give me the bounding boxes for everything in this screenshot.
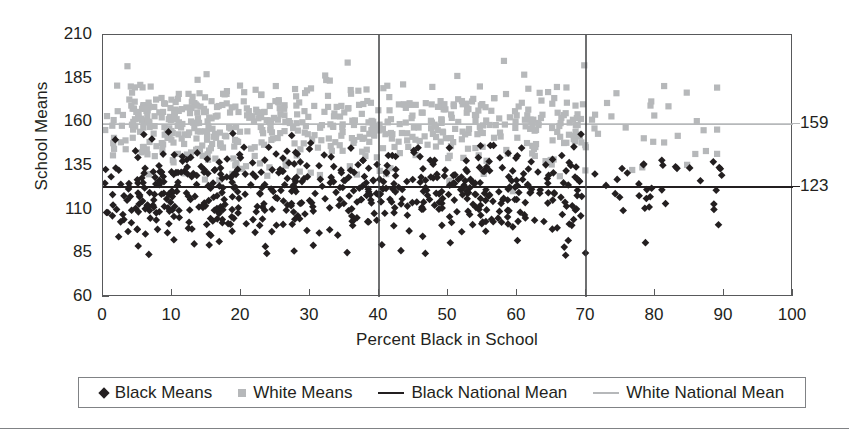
data-point: [249, 159, 257, 167]
data-point: [129, 90, 135, 96]
data-point: [525, 165, 533, 173]
data-point: [275, 99, 281, 105]
data-point: [608, 113, 614, 119]
x-tick-label: 60: [486, 306, 546, 323]
data-point: [153, 96, 159, 102]
data-point: [558, 152, 566, 160]
y-tick-label: 60: [34, 287, 92, 304]
legend-line-marker-icon: [378, 392, 404, 394]
data-point: [483, 117, 489, 123]
data-point: [215, 238, 223, 246]
data-point: [613, 176, 621, 184]
data-point: [302, 130, 308, 136]
data-point: [123, 146, 129, 152]
data-point: [290, 160, 298, 168]
data-point: [703, 148, 709, 154]
data-point: [531, 216, 539, 224]
x-tick-label: 100: [762, 306, 822, 323]
data-point: [202, 94, 208, 100]
data-point: [107, 173, 115, 181]
data-point: [557, 173, 563, 179]
legend-line-marker-icon: [593, 392, 619, 394]
data-point: [509, 167, 517, 175]
legend-item[interactable]: Black National Mean: [378, 383, 567, 403]
data-point: [273, 83, 279, 89]
data-point: [413, 102, 419, 108]
data-point: [139, 149, 145, 155]
data-point: [409, 176, 417, 184]
data-point: [228, 227, 236, 235]
data-point: [241, 89, 247, 95]
data-point: [395, 139, 401, 145]
data-point: [474, 131, 480, 137]
data-point: [539, 112, 545, 118]
data-point: [334, 231, 342, 239]
legend-item[interactable]: White National Mean: [593, 383, 784, 403]
data-point: [389, 131, 395, 137]
data-point: [370, 210, 378, 218]
data-point: [404, 130, 410, 136]
data-point: [521, 72, 527, 78]
data-point: [499, 164, 507, 172]
data-point: [423, 100, 429, 106]
data-point: [497, 130, 503, 136]
x-tick-label: 20: [210, 306, 270, 323]
data-point: [496, 208, 504, 216]
data-point: [133, 225, 141, 233]
data-point: [252, 153, 258, 159]
data-point: [400, 81, 406, 87]
data-point: [419, 233, 427, 241]
data-point: [171, 111, 177, 117]
data-point: [454, 73, 460, 79]
data-point: [329, 148, 335, 154]
data-point: [560, 243, 568, 251]
data-point: [232, 103, 238, 109]
data-point: [119, 211, 127, 219]
data-point: [186, 206, 194, 214]
x-tick-label: 30: [279, 306, 339, 323]
data-point: [270, 135, 276, 141]
data-point: [263, 250, 271, 258]
data-point: [175, 96, 181, 102]
data-point: [573, 192, 581, 200]
data-point: [401, 101, 407, 107]
data-point: [189, 94, 195, 100]
data-point: [433, 143, 439, 149]
data-point: [281, 112, 287, 118]
data-point: [211, 166, 219, 174]
data-point: [422, 133, 428, 139]
data-point: [535, 120, 541, 126]
data-point: [572, 103, 578, 109]
data-point: [126, 96, 132, 102]
data-point: [577, 212, 585, 220]
data-point: [459, 136, 465, 142]
data-point: [459, 129, 465, 135]
data-point: [132, 147, 140, 155]
legend-item[interactable]: White Means: [238, 383, 352, 403]
data-point: [514, 135, 520, 141]
data-point: [196, 120, 202, 126]
data-point: [650, 139, 656, 145]
data-point: [549, 101, 555, 107]
chart-area: School Means 2101851601351108560 0102030…: [0, 0, 849, 360]
data-point: [110, 152, 116, 158]
data-point: [194, 103, 200, 109]
data-point: [103, 166, 109, 174]
data-point: [371, 127, 377, 133]
data-point: [235, 109, 241, 115]
data-point: [124, 228, 132, 236]
black-national-mean-value-label: 123: [800, 177, 828, 194]
data-point: [213, 135, 219, 141]
data-point: [259, 215, 267, 223]
data-point: [549, 125, 555, 131]
data-point: [345, 192, 353, 200]
data-point: [294, 111, 300, 117]
data-point: [303, 162, 311, 170]
data-point: [519, 176, 527, 184]
legend-item[interactable]: Black Means: [100, 383, 212, 403]
data-point: [213, 113, 219, 119]
data-point: [115, 233, 123, 241]
data-point: [386, 94, 392, 100]
data-point: [562, 251, 570, 259]
legend-item-label: Black Means: [115, 383, 212, 403]
